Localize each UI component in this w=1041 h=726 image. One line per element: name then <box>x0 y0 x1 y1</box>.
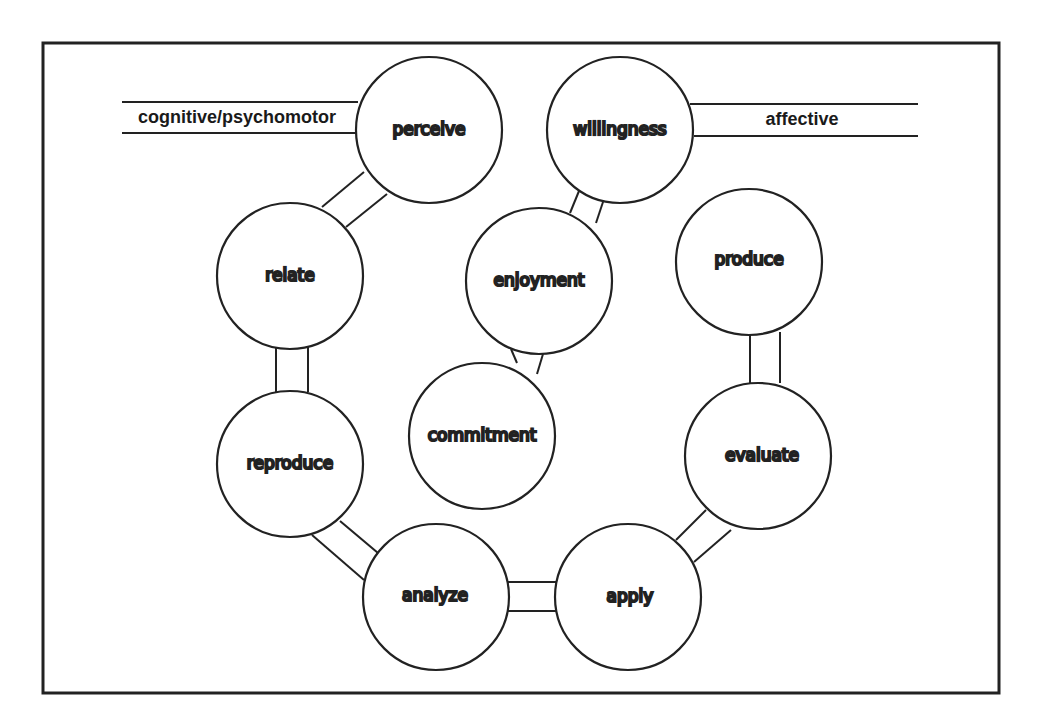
header-band-left: cognitive/psychomotor <box>122 102 358 133</box>
node-commitment: commitment <box>409 363 555 509</box>
svg-text:relate: relate <box>265 265 314 285</box>
header-affective: affective <box>765 109 838 129</box>
node-enjoyment: enjoyment <box>466 208 612 354</box>
node-analyze: analyze <box>363 524 509 670</box>
header-band-right: affective <box>690 104 918 136</box>
node-perceive: perceive <box>356 57 502 203</box>
svg-text:analyze: analyze <box>402 585 468 605</box>
header-cognitive-psychomotor: cognitive/psychomotor <box>138 107 336 127</box>
node-evaluate: evaluate <box>685 383 831 529</box>
node-produce: produce <box>676 189 822 335</box>
svg-text:commitment: commitment <box>428 425 537 445</box>
taxonomy-diagram: cognitive/psychomotor affective <box>0 0 1041 726</box>
svg-text:perceive: perceive <box>393 119 466 139</box>
svg-text:willingness: willingness <box>573 119 666 139</box>
node-relate: relate <box>217 203 363 349</box>
svg-text:evaluate: evaluate <box>725 445 799 465</box>
svg-text:produce: produce <box>714 249 783 269</box>
frame-border <box>43 43 999 693</box>
svg-text:apply: apply <box>607 586 654 606</box>
svg-text:enjoyment: enjoyment <box>494 270 585 290</box>
node-willingness: willingness <box>547 57 693 203</box>
node-apply: apply <box>555 524 701 670</box>
node-reproduce: reproduce <box>217 391 363 537</box>
svg-text:reproduce: reproduce <box>247 453 333 473</box>
